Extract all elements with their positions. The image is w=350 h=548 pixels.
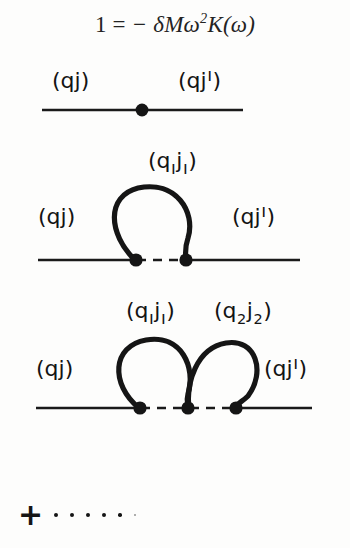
diagram3-left-label: (qj)	[36, 356, 73, 381]
diagram-one-vertex: (qj) (qjı)	[0, 60, 350, 130]
ellipsis-dot	[134, 514, 137, 517]
ellipsis-dot	[86, 513, 90, 517]
prime-mark: ı	[261, 201, 267, 221]
vertex-dot	[181, 401, 194, 414]
diagram-single-loop: (qıjı) (qj) (qjı)	[0, 148, 350, 273]
vertex-dot	[229, 401, 242, 414]
vertex-dot	[179, 253, 192, 266]
equation-rhs-head: − δMω	[132, 12, 200, 37]
diagram1-left-label: (qj)	[52, 68, 89, 93]
equation-rhs-tail: K(ω)	[207, 12, 255, 37]
prime-mark: ı	[207, 65, 213, 85]
prime-mark: ı	[293, 353, 299, 373]
vertex-dot	[129, 253, 142, 266]
diagram-double-loop: (qıjı) (q2j2) (qj) (qjı)	[0, 298, 350, 423]
phonon-loop-2	[188, 343, 256, 408]
main-equation: 1 = − δMω2K(ω)	[0, 10, 350, 38]
vertex-dot	[136, 104, 149, 117]
diagram3-loop2-label: (q2j2)	[214, 298, 272, 323]
diagram3-loop1-label: (qıjı)	[126, 298, 175, 323]
diagram2-loop-label: (qıjı)	[148, 148, 197, 173]
phonon-loop	[114, 187, 189, 260]
ellipsis-dot	[54, 513, 58, 517]
equation-relation: =	[113, 12, 126, 37]
ellipsis-dot	[118, 513, 122, 517]
series-continuation: +	[18, 500, 136, 530]
ellipsis-dots	[54, 513, 136, 517]
vertex-dot	[133, 401, 146, 414]
diagram2-right-label: (qjı)	[232, 204, 275, 229]
plus-sign: +	[18, 500, 43, 530]
ellipsis-dot	[70, 513, 74, 517]
diagram1-right-label: (qjı)	[178, 68, 221, 93]
ellipsis-dot	[102, 513, 106, 517]
phonon-loop-1	[119, 339, 190, 408]
equation-lhs: 1	[95, 12, 107, 37]
figure-canvas: 1 = − δMω2K(ω) (qj) (qjı) (qıjı) (qj) (q…	[0, 0, 350, 548]
diagram2-left-label: (qj)	[38, 204, 75, 229]
diagram3-right-label: (qjı)	[264, 356, 307, 381]
